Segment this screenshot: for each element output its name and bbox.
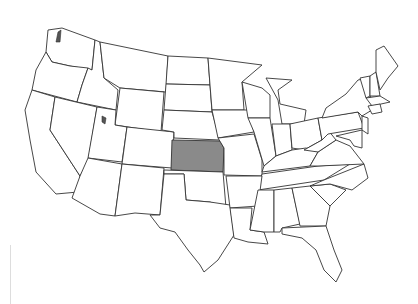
state-maine <box>376 46 398 90</box>
state-florida <box>282 226 342 282</box>
state-connecticut-ri <box>368 104 382 114</box>
state-new-jersey <box>362 116 368 134</box>
state-new-mexico <box>115 164 164 216</box>
us-map-svg <box>0 0 418 304</box>
state-north-dakota <box>166 56 210 85</box>
state-colorado <box>122 127 174 168</box>
state-kansas <box>171 140 224 172</box>
state-missouri <box>218 134 262 176</box>
state-south-dakota <box>164 84 212 112</box>
state-michigan <box>266 78 306 124</box>
us-map <box>0 0 418 304</box>
state-wyoming <box>115 88 164 132</box>
